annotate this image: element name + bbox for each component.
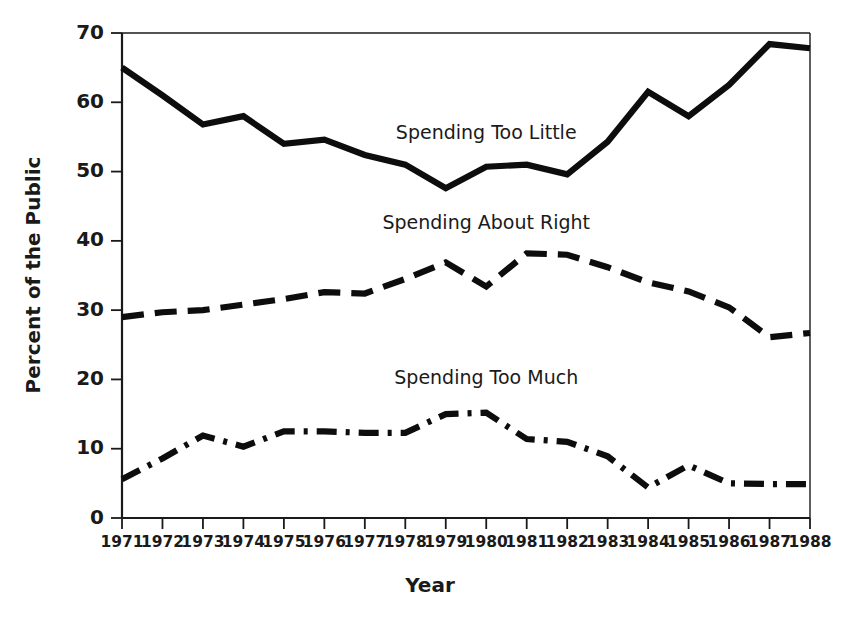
series-label-1: Spending About Right (382, 211, 590, 233)
x-tick-label: 1983 (586, 533, 629, 551)
y-axis-ticks (111, 33, 122, 518)
x-tick-label: 1975 (262, 533, 305, 551)
series-line-0 (122, 44, 810, 188)
chart-figure: 010203040506070 197119721973197419751976… (0, 0, 851, 620)
x-tick-label: 1985 (667, 533, 710, 551)
x-axis-ticks (122, 518, 810, 529)
x-tick-label: 1973 (181, 533, 224, 551)
y-tick-label: 60 (76, 89, 104, 113)
y-axis-tick-labels: 010203040506070 (76, 20, 104, 529)
y-tick-label: 20 (76, 366, 104, 390)
x-tick-label: 1986 (707, 533, 750, 551)
x-tick-label: 1974 (222, 533, 265, 551)
x-axis-tick-labels: 1971197219731974197519761977197819791980… (100, 533, 831, 551)
x-tick-label: 1981 (505, 533, 548, 551)
y-axis-title: Percent of the Public (21, 157, 45, 394)
y-tick-label: 0 (90, 505, 104, 529)
x-axis-title: Year (404, 573, 455, 597)
x-tick-label: 1971 (100, 533, 143, 551)
x-tick-label: 1988 (788, 533, 831, 551)
line-chart: 010203040506070 197119721973197419751976… (0, 0, 851, 620)
series-line-1 (122, 253, 810, 337)
x-tick-label: 1977 (343, 533, 386, 551)
x-tick-label: 1979 (424, 533, 467, 551)
y-tick-label: 10 (76, 435, 104, 459)
x-tick-label: 1980 (465, 533, 508, 551)
y-tick-label: 50 (76, 158, 104, 182)
x-tick-label: 1976 (303, 533, 346, 551)
series-line-2 (122, 413, 810, 488)
x-tick-label: 1982 (546, 533, 589, 551)
y-tick-label: 30 (76, 297, 104, 321)
x-tick-label: 1984 (627, 533, 670, 551)
series-label-2: Spending Too Much (394, 366, 578, 388)
data-series-group (122, 44, 810, 487)
y-tick-label: 40 (76, 227, 104, 251)
x-tick-label: 1972 (141, 533, 184, 551)
x-tick-label: 1987 (748, 533, 791, 551)
y-tick-label: 70 (76, 20, 104, 44)
series-label-0: Spending Too Little (396, 121, 577, 143)
x-tick-label: 1978 (384, 533, 427, 551)
